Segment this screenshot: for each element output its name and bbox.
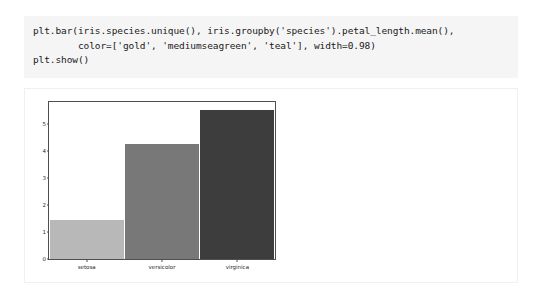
x-tick-label: versicolor bbox=[149, 264, 176, 270]
y-tick-mark bbox=[47, 178, 50, 179]
x-tick-mark bbox=[237, 259, 238, 262]
y-tick-label: 4 bbox=[43, 148, 47, 154]
y-tick-label: 3 bbox=[43, 175, 47, 181]
x-tick-label: virginica bbox=[226, 264, 249, 270]
matplotlib-figure: 012345setosaversicolorvirginica bbox=[25, 89, 325, 282]
x-tick-label: setosa bbox=[78, 264, 96, 270]
y-tick-mark bbox=[47, 259, 50, 260]
bar-virginica bbox=[200, 110, 274, 259]
y-tick-label: 5 bbox=[43, 121, 47, 127]
code-source-text: plt.bar(iris.species.unique(), iris.grou… bbox=[33, 24, 518, 68]
y-tick-label: 1 bbox=[43, 229, 47, 235]
y-tick-mark bbox=[47, 124, 50, 125]
y-tick-mark bbox=[47, 205, 50, 206]
x-tick-mark bbox=[86, 259, 87, 262]
y-tick-mark bbox=[47, 232, 50, 233]
plot-axes: 012345setosaversicolorvirginica bbox=[48, 101, 276, 260]
y-tick-label: 2 bbox=[43, 202, 47, 208]
bar-versicolor bbox=[125, 144, 199, 259]
y-tick-mark bbox=[47, 151, 50, 152]
code-input-cell[interactable]: plt.bar(iris.species.unique(), iris.grou… bbox=[24, 16, 518, 78]
bar-setosa bbox=[50, 220, 124, 259]
code-output-cell: 012345setosaversicolorvirginica bbox=[24, 88, 518, 283]
y-tick-label: 0 bbox=[43, 256, 47, 262]
x-tick-mark bbox=[162, 259, 163, 262]
